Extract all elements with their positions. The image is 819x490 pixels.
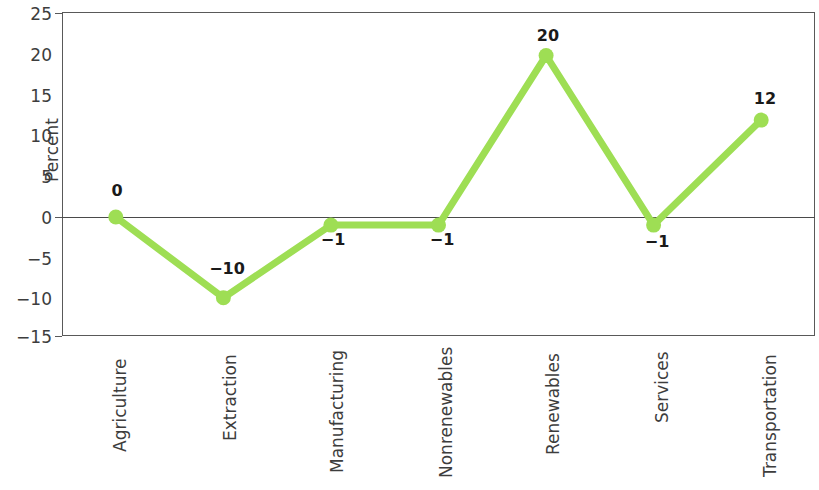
y-tick-label-0: 0 bbox=[6, 208, 52, 228]
y-tick-label-m10: −10 bbox=[6, 289, 52, 309]
y-tick-label-m5: −5 bbox=[6, 249, 52, 269]
point-label-renewables: 20 bbox=[513, 26, 583, 45]
y-tick-label-m15: −15 bbox=[6, 327, 52, 347]
point-label-nonrenewables: −1 bbox=[407, 230, 477, 249]
point-label-extraction: −10 bbox=[192, 259, 262, 278]
zero-reference-line bbox=[62, 217, 815, 218]
x-category-label-services: Services bbox=[652, 351, 672, 423]
point-label-services: −1 bbox=[622, 232, 692, 251]
y-tick-mark-m15 bbox=[55, 336, 62, 337]
plot-area-frame bbox=[62, 12, 815, 336]
y-tick-label-20: 20 bbox=[6, 45, 52, 65]
y-tick-label-25: 25 bbox=[6, 4, 52, 24]
x-category-label-transportation: Transportation bbox=[760, 354, 780, 477]
y-tick-mark-25 bbox=[55, 13, 62, 14]
y-tick-label-15: 15 bbox=[6, 86, 52, 106]
y-tick-label-10: 10 bbox=[6, 126, 52, 146]
point-label-manufacturing: −1 bbox=[298, 230, 368, 249]
point-label-transportation: 12 bbox=[730, 89, 800, 108]
x-category-label-extraction: Extraction bbox=[220, 354, 240, 441]
y-axis-title: Percent bbox=[42, 90, 62, 210]
x-category-label-agriculture: Agriculture bbox=[110, 359, 130, 453]
point-label-agriculture: 0 bbox=[82, 181, 152, 200]
x-category-label-nonrenewables: Nonrenewables bbox=[436, 347, 456, 478]
line-chart-figure: Percent 25 20 15 10 5 0 −5 −10 −15 0 −10… bbox=[0, 0, 819, 490]
x-category-label-renewables: Renewables bbox=[543, 353, 563, 455]
y-tick-label-5: 5 bbox=[6, 167, 52, 187]
y-tick-mark-0 bbox=[55, 217, 62, 218]
x-category-label-manufacturing: Manufacturing bbox=[327, 350, 347, 473]
